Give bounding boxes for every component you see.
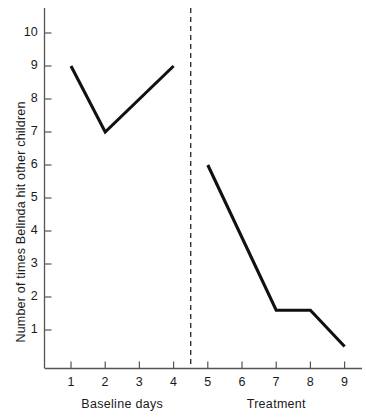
x-axis-tick-label: 7 [265,375,287,389]
chart-container: 12345678910 123456789 Baseline daysTreat… [0,0,366,418]
x-axis-tick-label: 5 [197,375,219,389]
x-axis-tick-label: 3 [128,375,150,389]
x-axis-ticks [71,362,345,369]
phase-caption: Treatment [247,397,306,411]
x-axis-tick-label: 9 [334,375,356,389]
series-line [71,66,174,132]
x-axis-tick-label: 2 [94,375,116,389]
plot-area [0,0,366,418]
series-line [208,165,345,347]
data-series-group [71,66,345,347]
y-axis-ticks [45,33,52,330]
y-axis-tick-label: 10 [16,25,38,39]
phase-caption: Baseline days [81,397,163,411]
x-axis-tick-label: 6 [231,375,253,389]
x-axis-tick-label: 1 [60,375,82,389]
x-axis-tick-label: 4 [163,375,185,389]
x-axis-tick-label: 8 [299,375,321,389]
y-axis-title: Number of times Belinda hit other childr… [14,67,28,377]
